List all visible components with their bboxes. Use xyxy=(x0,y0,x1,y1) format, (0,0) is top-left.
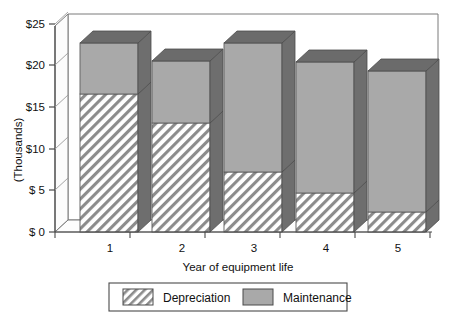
legend-label-maintenance: Maintenance xyxy=(283,291,352,305)
bar-segment-depreciation[interactable] xyxy=(224,172,282,232)
legend-label-depreciation: Depreciation xyxy=(163,291,230,305)
bar-segment-depreciation[interactable] xyxy=(296,193,354,232)
y-tick-label: $10 xyxy=(26,143,45,155)
bar-segment-maintenance-side xyxy=(354,50,367,193)
bar-group-year-1[interactable] xyxy=(80,31,151,232)
bar-top-cap xyxy=(296,50,367,62)
bar-segment-maintenance[interactable] xyxy=(224,43,282,172)
bar-segment-maintenance[interactable] xyxy=(80,43,138,94)
y-tick-label: $ 0 xyxy=(29,226,45,238)
bar-segment-depreciation-side xyxy=(138,82,151,232)
left-wall xyxy=(55,14,68,232)
bar-top-cap xyxy=(80,31,151,43)
bar-segment-maintenance-side xyxy=(210,49,223,123)
bar-segment-maintenance-side xyxy=(426,59,439,212)
x-tick-label: 5 xyxy=(395,242,401,254)
y-tick-0: $ 0 xyxy=(29,226,55,238)
bar-top-cap xyxy=(368,59,439,71)
y-tick-label: $15 xyxy=(26,101,45,113)
stacked-column-chart: $25 $20 $15 $10 xyxy=(0,0,452,324)
legend-swatch-depreciation xyxy=(123,289,153,305)
bar-group-year-4[interactable] xyxy=(296,50,367,232)
x-tick-label: 3 xyxy=(251,242,257,254)
y-tick-label: $25 xyxy=(26,18,45,30)
bar-segment-maintenance[interactable] xyxy=(152,61,210,123)
x-axis: 1 2 3 4 5 Year of equipment life xyxy=(55,232,432,273)
x-tick-label: 4 xyxy=(323,242,330,254)
x-tick-label: 2 xyxy=(179,242,185,254)
y-axis-title: (Thousands) xyxy=(12,118,24,183)
x-tick-label: 1 xyxy=(107,242,113,254)
y-tick-label: $ 5 xyxy=(29,184,45,196)
bar-group-year-3[interactable] xyxy=(224,31,295,232)
legend-swatch-maintenance xyxy=(243,289,273,305)
bar-segment-depreciation[interactable] xyxy=(368,212,426,232)
bar-group-year-2[interactable] xyxy=(152,49,223,232)
bar-top-cap xyxy=(152,49,223,61)
bar-segment-depreciation-side xyxy=(210,111,223,232)
bar-segment-maintenance-side xyxy=(282,31,295,172)
bar-top-cap xyxy=(224,31,295,43)
bar-segment-maintenance[interactable] xyxy=(296,62,354,193)
legend: Depreciation Maintenance xyxy=(109,283,352,311)
x-axis-title: Year of equipment life xyxy=(183,261,294,273)
y-tick-label: $20 xyxy=(26,59,45,71)
bar-segment-maintenance[interactable] xyxy=(368,71,426,212)
chart-container: $25 $20 $15 $10 xyxy=(0,0,452,324)
bar-segment-depreciation[interactable] xyxy=(152,123,210,232)
bar-group-year-5[interactable] xyxy=(368,59,439,232)
bar-segment-depreciation-side xyxy=(282,160,295,232)
bar-segment-depreciation[interactable] xyxy=(80,94,138,232)
